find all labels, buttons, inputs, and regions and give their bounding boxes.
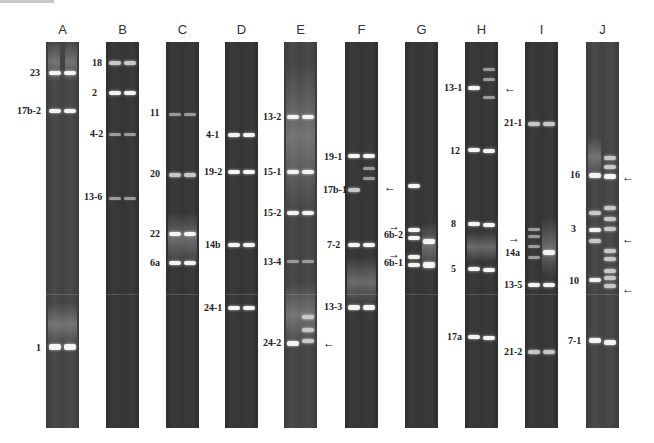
band-label: 14b <box>205 239 221 250</box>
arrow-left-icon: ← <box>323 338 335 348</box>
arrow-right-icon: → <box>508 233 520 243</box>
band-label: 24-2 <box>263 337 281 348</box>
band-label: 7-2 <box>327 239 340 250</box>
gel-lane-j <box>586 42 619 428</box>
band-label: 2 <box>92 87 97 98</box>
band-label: 13-4 <box>263 256 281 267</box>
band-label: 7-1 <box>568 335 581 346</box>
band-label: 8 <box>451 218 456 229</box>
arrow-left-icon: ← <box>384 182 396 192</box>
gel-lane-a <box>46 42 79 428</box>
band-label: 13-3 <box>324 301 342 312</box>
band-label: 13-2 <box>263 111 281 122</box>
band-label: 10 <box>569 275 579 286</box>
band-label: 5 <box>451 263 456 274</box>
panel-letter-h: H <box>465 22 498 37</box>
band-label: 3 <box>571 223 576 234</box>
panel-letter-f: F <box>345 22 378 37</box>
panel-letter-d: D <box>225 22 258 37</box>
band-label: 4-1 <box>206 129 219 140</box>
band-label: 4-2 <box>90 128 103 139</box>
band-label: 23 <box>30 67 40 78</box>
band-label: 17a <box>447 331 462 342</box>
band-label: 17b-1 <box>323 184 347 195</box>
panel-letter-a: A <box>46 22 79 37</box>
arrow-left-icon: ← <box>622 284 634 294</box>
band-label: 15-2 <box>263 207 281 218</box>
arrow-left-icon: ← <box>504 83 516 93</box>
arrow-right-icon: → <box>388 249 400 259</box>
gel-lane-f <box>345 42 378 428</box>
band-label: 12 <box>450 145 460 156</box>
arrow-left-icon: ← <box>622 172 634 182</box>
band-label: 21-2 <box>504 346 522 357</box>
band-label: 19-2 <box>204 166 222 177</box>
band-label: 22 <box>150 228 160 239</box>
band-label: 21-1 <box>504 117 522 128</box>
band-label: 11 <box>150 107 159 118</box>
band-label: 13-6 <box>84 191 102 202</box>
band-label: 20 <box>150 168 160 179</box>
top-edge-bar <box>0 0 54 3</box>
gel-lane-b <box>106 42 139 428</box>
band-label: 6a <box>150 257 160 268</box>
arrow-left-icon: ← <box>622 234 634 244</box>
gel-lane-g <box>405 42 438 428</box>
panel-letter-j: J <box>586 22 619 37</box>
band-label: 18 <box>92 57 102 68</box>
arrow-right-icon: → <box>388 221 400 231</box>
panel-letter-b: B <box>106 22 139 37</box>
band-label: 17b-2 <box>17 105 41 116</box>
band-label: 13-5 <box>504 279 522 290</box>
gel-lane-c <box>166 42 199 428</box>
band-label: 24-1 <box>204 302 222 313</box>
panel-letter-g: G <box>405 22 438 37</box>
panel-letter-c: C <box>166 22 199 37</box>
band-label: 14a <box>505 247 520 258</box>
band-label: 15-1 <box>263 166 281 177</box>
panel-letter-e: E <box>284 22 317 37</box>
panel-letter-i: I <box>525 22 558 37</box>
gel-lane-h <box>465 42 498 428</box>
gel-lane-d <box>225 42 258 428</box>
band-label: 13-1 <box>444 82 462 93</box>
gel-lane-e <box>284 42 317 428</box>
gel-lane-i <box>525 42 558 428</box>
band-label: 16 <box>570 169 580 180</box>
band-label: 1 <box>36 342 41 353</box>
band-label: 19-1 <box>324 151 342 162</box>
